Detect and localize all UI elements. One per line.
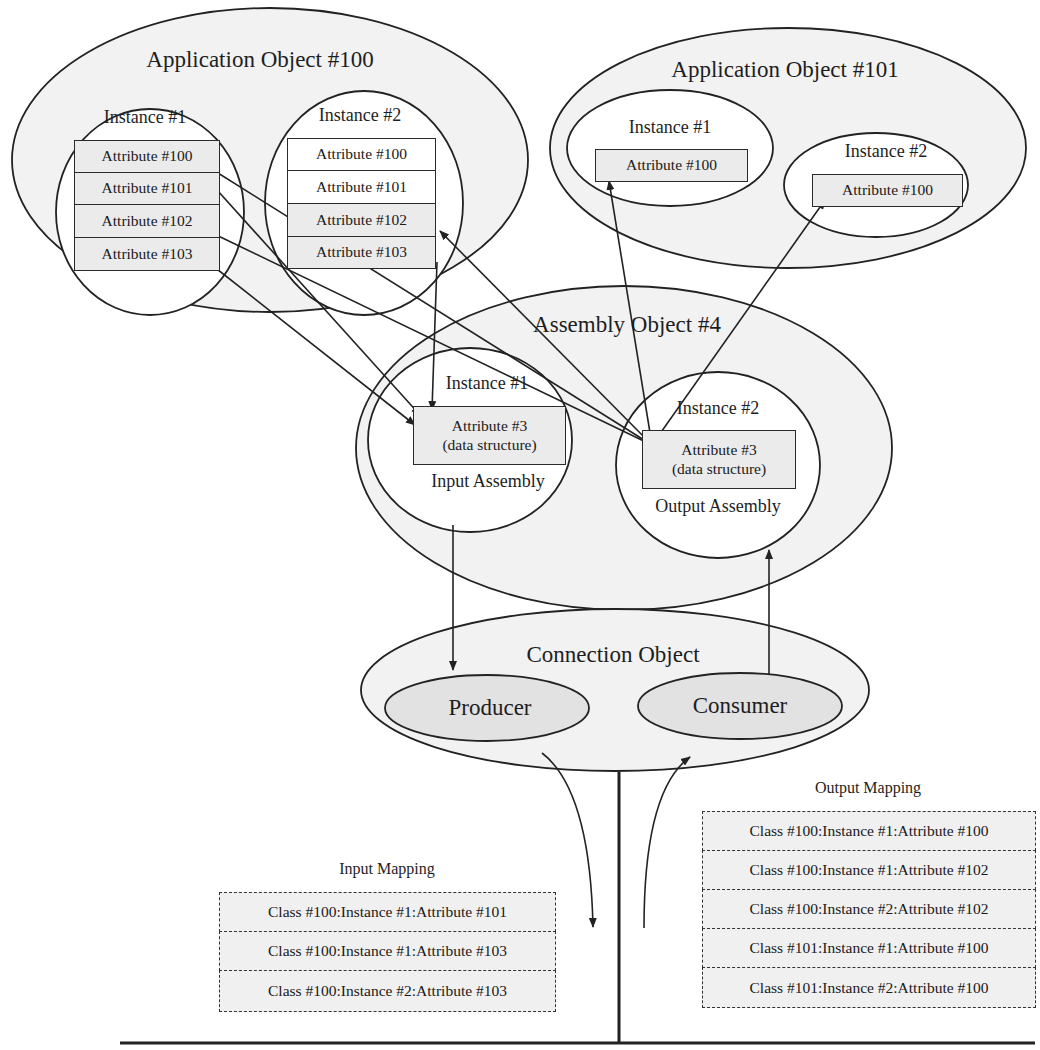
output-mapping-row: Class #101:Instance #1:Attribute #100 — [702, 928, 1036, 968]
app-100-inst-1-attribute-101: Attribute #101 — [74, 172, 220, 205]
attr-3-name: Attribute #3 — [452, 417, 527, 436]
app-101-inst-2-attribute-100: Attribute #100 — [812, 174, 963, 207]
input-mapping-row: Class #100:Instance #2:Attribute #103 — [219, 970, 556, 1012]
assembly-instance-2-title: Instance #2 — [677, 398, 759, 419]
app-101-instance-1-ellipse — [567, 90, 773, 206]
app-100-instance-2-title: Instance #2 — [319, 105, 401, 126]
assembly-instance-1-title: Instance #1 — [446, 373, 528, 394]
input-mapping-row: Class #100:Instance #1:Attribute #103 — [219, 931, 556, 971]
app-100-inst-2-attribute-102: Attribute #102 — [287, 203, 436, 237]
app-100-inst-2-attribute-101: Attribute #101 — [287, 170, 436, 204]
diagram-canvas: Application Object #100 Instance #1 Inst… — [0, 0, 1040, 1050]
output-mapping-row: Class #100:Instance #1:Attribute #102 — [702, 850, 1036, 890]
assembly-instance-1-attribute-3: Attribute #3 (data structure) — [413, 406, 566, 465]
app-object-101-title: Application Object #101 — [671, 57, 898, 83]
app-100-inst-2-attribute-100: Attribute #100 — [287, 138, 436, 171]
input-assembly-caption: Input Assembly — [431, 471, 545, 492]
input-mapping-row: Class #100:Instance #1:Attribute #101 — [219, 892, 556, 932]
attr-3-desc: (data structure) — [442, 436, 536, 455]
app-101-instance-2-title: Instance #2 — [845, 141, 927, 162]
app-101-inst-1-attribute-100: Attribute #100 — [595, 149, 748, 182]
attr-3-desc: (data structure) — [672, 460, 766, 479]
app-100-instance-1-title: Instance #1 — [104, 107, 186, 128]
producer-label: Producer — [448, 695, 531, 721]
assembly-instance-2-attribute-3: Attribute #3 (data structure) — [642, 430, 796, 489]
input-mapping-title: Input Mapping — [339, 860, 435, 878]
app-object-100-title: Application Object #100 — [146, 47, 373, 73]
connection-object-title: Connection Object — [526, 642, 699, 668]
attr-3-name: Attribute #3 — [681, 441, 756, 460]
assembly-object-title: Assembly Object #4 — [533, 312, 721, 338]
output-mapping-row: Class #100:Instance #2:Attribute #102 — [702, 889, 1036, 929]
output-mapping-title: Output Mapping — [815, 779, 921, 797]
app-100-inst-2-attribute-103: Attribute #103 — [287, 236, 436, 269]
app-101-instance-1-title: Instance #1 — [629, 117, 711, 138]
app-100-inst-1-attribute-103: Attribute #103 — [74, 237, 220, 271]
output-assembly-caption: Output Assembly — [655, 496, 781, 517]
consumer-label: Consumer — [693, 693, 788, 719]
app-100-inst-1-attribute-100: Attribute #100 — [74, 140, 220, 173]
output-mapping-row: Class #100:Instance #1:Attribute #100 — [702, 811, 1036, 851]
app-100-inst-1-attribute-102: Attribute #102 — [74, 204, 220, 238]
output-mapping-row: Class #101:Instance #2:Attribute #100 — [702, 967, 1036, 1008]
